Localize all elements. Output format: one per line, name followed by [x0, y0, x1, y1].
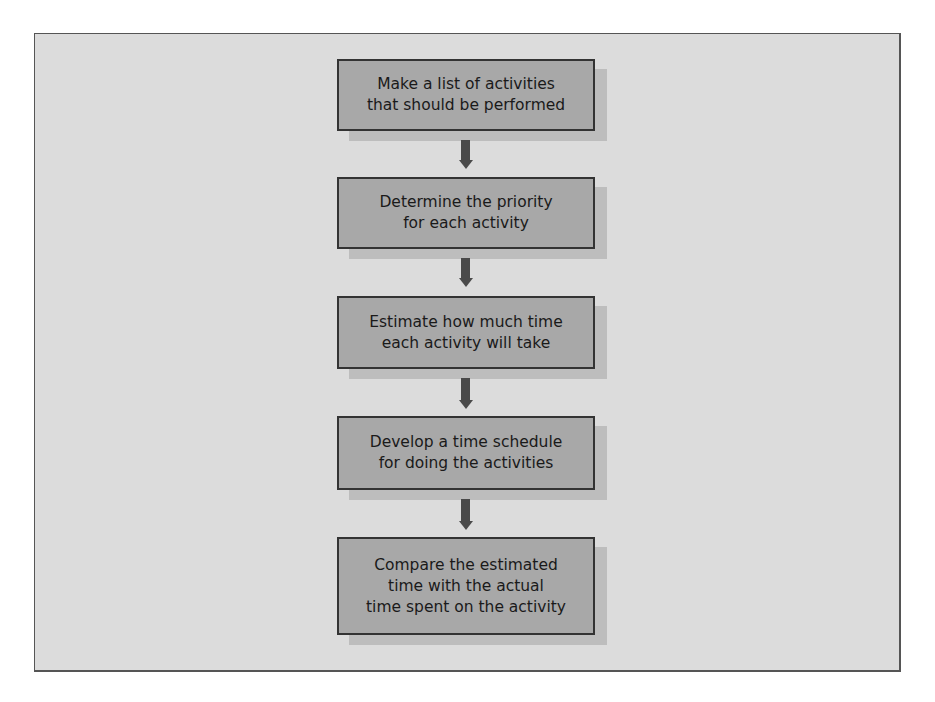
flow-step-label: Make a list of activities that should be…	[367, 74, 565, 116]
down-arrow-icon	[459, 140, 473, 170]
flow-step-compare-time: Compare the estimated time with the actu…	[337, 537, 595, 635]
flow-step-label: Develop a time schedule for doing the ac…	[370, 432, 563, 474]
flow-step-make-list: Make a list of activities that should be…	[337, 59, 595, 131]
down-arrow-icon	[459, 258, 473, 288]
flow-step-develop-schedule: Develop a time schedule for doing the ac…	[337, 416, 595, 490]
flow-step-label: Estimate how much time each activity wil…	[369, 312, 563, 354]
flow-step-label: Compare the estimated time with the actu…	[366, 555, 566, 618]
down-arrow-icon	[459, 378, 473, 410]
flow-step-estimate-time: Estimate how much time each activity wil…	[337, 296, 595, 369]
flow-step-determine-priority: Determine the priority for each activity	[337, 177, 595, 249]
flow-step-label: Determine the priority for each activity	[379, 192, 552, 234]
down-arrow-icon	[459, 499, 473, 531]
